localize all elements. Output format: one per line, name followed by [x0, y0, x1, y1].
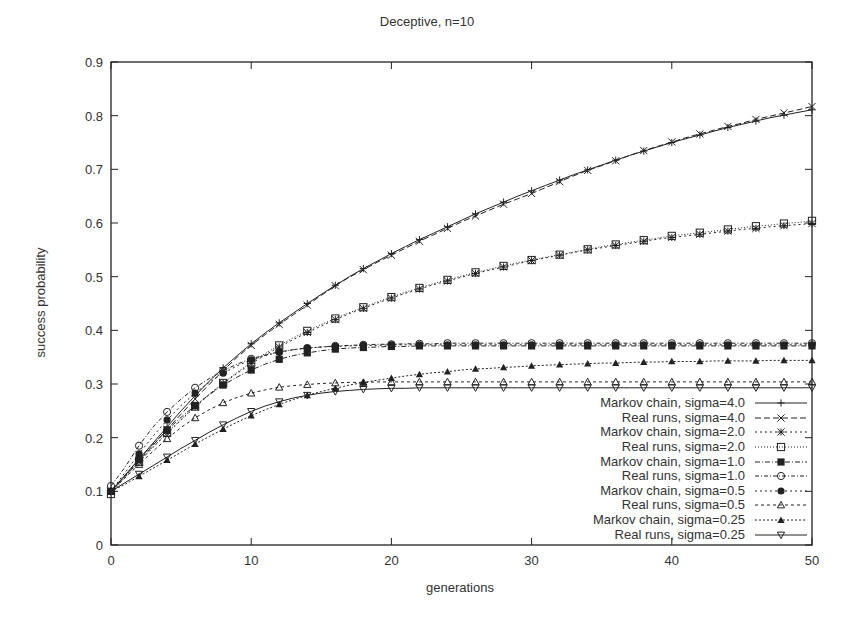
chart-title: Deceptive, n=10 — [0, 14, 854, 29]
legend-swatch-x-icon — [753, 412, 809, 424]
y-tick-label: 0.4 — [85, 323, 103, 338]
y-tick-label: 0.9 — [85, 55, 103, 70]
legend-swatch-filled-triangle-icon — [753, 514, 809, 526]
legend-item: Real runs, sigma=2.0 — [593, 440, 809, 455]
legend-swatch-triangle-icon — [753, 499, 809, 511]
legend-item: Markov chain, sigma=2.0 — [593, 425, 809, 440]
y-tick-label: 0.6 — [85, 216, 103, 231]
legend-item: Real runs, sigma=4.0 — [593, 411, 809, 426]
x-tick-label: 0 — [107, 553, 114, 568]
legend-item: Real runs, sigma=0.5 — [593, 498, 809, 513]
x-axis-label: generations — [0, 580, 854, 595]
legend-item: Real runs, sigma=1.0 — [593, 469, 809, 484]
legend-swatch-filled-square-icon — [753, 456, 809, 468]
legend-label: Markov chain, sigma=4.0 — [600, 396, 745, 410]
legend-swatch-filled-circle-icon — [753, 485, 809, 497]
legend-swatch-down-triangle-icon — [753, 529, 809, 541]
legend-swatch-plus-icon — [753, 397, 809, 409]
legend-item: Markov chain, sigma=0.5 — [593, 484, 809, 499]
y-tick-label: 0 — [96, 538, 103, 553]
y-tick-label: 0.8 — [85, 109, 103, 124]
legend-swatch-square-icon — [753, 441, 809, 453]
y-tick-label: 0.7 — [85, 162, 103, 177]
legend-swatch-circle-icon — [753, 470, 809, 482]
y-tick-label: 0.5 — [85, 270, 103, 285]
legend-label: Real runs, sigma=1.0 — [622, 469, 745, 483]
x-tick-label: 20 — [384, 553, 398, 568]
y-tick-label: 0.2 — [85, 431, 103, 446]
y-tick-label: 0.1 — [85, 484, 103, 499]
legend-label: Real runs, sigma=2.0 — [622, 440, 745, 454]
y-tick-label: 0.3 — [85, 377, 103, 392]
legend-swatch-star-icon — [753, 426, 809, 438]
x-tick-label: 50 — [805, 553, 819, 568]
legend-label: Markov chain, sigma=1.0 — [600, 455, 745, 469]
y-axis-label: success probability — [33, 223, 48, 383]
legend-item: Markov chain, sigma=4.0 — [593, 396, 809, 411]
legend-label: Real runs, sigma=0.5 — [622, 498, 745, 512]
legend: Markov chain, sigma=4.0 Real runs, sigma… — [593, 396, 809, 542]
legend-label: Markov chain, sigma=0.5 — [600, 484, 745, 498]
legend-label: Markov chain, sigma=2.0 — [600, 425, 745, 439]
x-tick-label: 30 — [524, 553, 538, 568]
legend-label: Markov chain, sigma=0.25 — [593, 513, 745, 527]
legend-item: Real runs, sigma=0.25 — [593, 527, 809, 542]
legend-item: Markov chain, sigma=1.0 — [593, 454, 809, 469]
x-tick-label: 40 — [665, 553, 679, 568]
legend-label: Real runs, sigma=0.25 — [615, 528, 745, 542]
legend-item: Markov chain, sigma=0.25 — [593, 513, 809, 528]
legend-label: Real runs, sigma=4.0 — [622, 411, 745, 425]
x-tick-label: 10 — [244, 553, 258, 568]
